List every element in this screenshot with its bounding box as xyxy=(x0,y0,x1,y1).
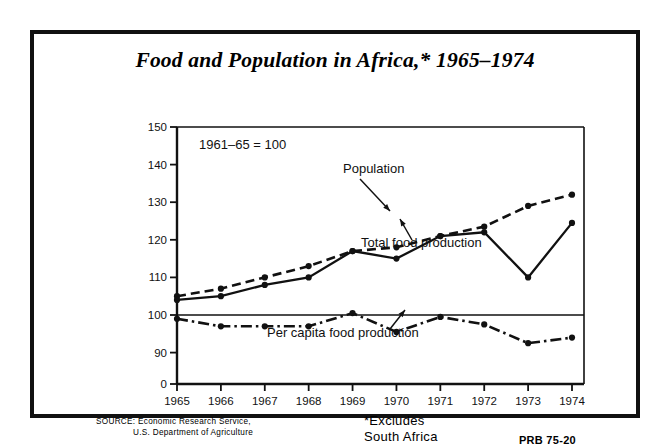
x-tick-label-1972: 1972 xyxy=(471,395,497,407)
x-tick-label-1970: 1970 xyxy=(384,395,410,407)
footnote: *Excludes South Africa xyxy=(364,413,438,446)
series-0-point-1973 xyxy=(525,203,531,209)
per-capita-label: Per capita food production xyxy=(267,325,419,340)
series-0-point-1967 xyxy=(262,274,268,280)
footnote-line-2: South Africa xyxy=(364,429,438,445)
x-tick-label-1968: 1968 xyxy=(296,395,322,407)
series-1-point-1970 xyxy=(393,256,399,262)
series-2-point-1972 xyxy=(481,321,487,327)
x-tick-label-1971: 1971 xyxy=(428,395,454,407)
series-1-point-1968 xyxy=(306,274,312,280)
y-tick-label-0: 0 xyxy=(161,378,167,390)
y-tick-label-150: 150 xyxy=(148,121,167,133)
series-1-point-1974 xyxy=(569,220,575,226)
series-1-point-1969 xyxy=(349,248,355,254)
plot-area: 0901001101201301401501965196619671968196… xyxy=(147,97,584,387)
x-tick-label-1973: 1973 xyxy=(515,395,541,407)
x-tick-label-1965: 1965 xyxy=(164,395,190,407)
series-0-point-1966 xyxy=(218,286,224,292)
y-tick-label-90: 90 xyxy=(154,347,167,359)
series-2-point-1966 xyxy=(218,323,224,329)
series-1-point-1966 xyxy=(218,293,224,299)
series-0-point-1974 xyxy=(569,192,575,198)
y-tick-label-100: 100 xyxy=(148,309,167,321)
series-0-point-1972 xyxy=(481,224,487,230)
index-note: 1961–65 = 100 xyxy=(199,137,286,152)
series-2-point-1971 xyxy=(437,314,443,320)
y-tick-label-110: 110 xyxy=(149,271,167,283)
total-food-label: Total food production xyxy=(361,235,482,250)
series-2-point-1974 xyxy=(569,334,575,340)
x-tick-label-1967: 1967 xyxy=(252,395,278,407)
series-1-point-1973 xyxy=(525,274,531,280)
series-2-point-1973 xyxy=(525,340,531,346)
source-line-1: Economic Research Service, xyxy=(138,417,251,426)
source-note: SOURCE: Economic Research Service, U.S. … xyxy=(96,416,253,438)
total-food-label-arrowhead xyxy=(400,219,406,226)
chart-svg: 0901001101201301401501965196619671968196… xyxy=(147,97,584,387)
series-0-point-1968 xyxy=(306,263,312,269)
publication-code: PRB 75-20 xyxy=(519,434,576,446)
series-2-point-1969 xyxy=(349,310,355,316)
chart-title: Food and Population in Africa,* 1965–197… xyxy=(34,48,636,73)
x-tick-label-1974: 1974 xyxy=(559,395,585,407)
x-tick-label-1966: 1966 xyxy=(208,395,234,407)
series-2-point-1965 xyxy=(174,316,180,322)
footnote-line-1: *Excludes xyxy=(364,413,438,429)
y-tick-label-140: 140 xyxy=(148,159,167,171)
y-tick-label-130: 130 xyxy=(148,196,167,208)
population-label: Population xyxy=(343,161,404,176)
y-tick-label-120: 120 xyxy=(148,234,167,246)
source-line-2: U.S. Department of Agriculture xyxy=(96,427,253,438)
source-label: SOURCE: xyxy=(96,417,135,426)
series-1-point-1965 xyxy=(174,297,180,303)
series-1-point-1967 xyxy=(262,282,268,288)
chart-frame: Food and Population in Africa,* 1965–197… xyxy=(30,30,640,418)
series-1-point-1972 xyxy=(481,229,487,235)
x-tick-label-1969: 1969 xyxy=(340,395,366,407)
